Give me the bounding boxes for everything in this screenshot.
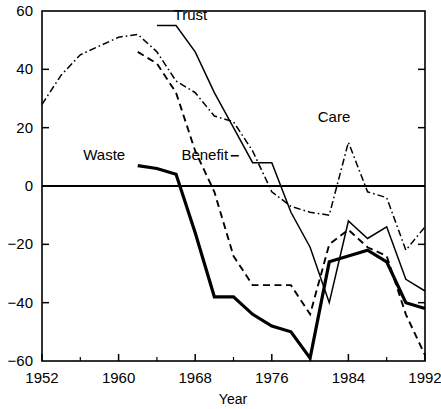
y-tick-label: −20 [8, 235, 33, 252]
x-axis-tick-labels: 195219601968197619841992 [25, 369, 441, 386]
chart-container: 195219601968197619841992 6040200−20−40−6… [0, 0, 441, 409]
x-axis-title: Year [219, 391, 248, 407]
series-line-care [42, 34, 425, 250]
y-tick-label: −40 [8, 294, 33, 311]
y-tick-label: −60 [8, 352, 33, 369]
series-line-waste [138, 166, 425, 358]
series-label-waste: Waste [83, 146, 125, 163]
x-tick-label: 1992 [408, 369, 441, 386]
series-lines [42, 26, 425, 359]
series-annotations: TrustCareWasteBenefit [83, 6, 350, 163]
x-tick-label: 1984 [332, 369, 365, 386]
x-tick-label: 1960 [102, 369, 135, 386]
series-label-care: Care [318, 108, 351, 125]
x-tick-label: 1976 [255, 369, 288, 386]
x-tick-label: 1968 [179, 369, 212, 386]
series-label-trust: Trust [174, 6, 208, 23]
y-tick-label: 60 [16, 2, 33, 19]
y-axis-tick-labels: 6040200−20−40−60 [8, 2, 33, 369]
y-tick-label: 40 [16, 60, 33, 77]
x-tick-label: 1952 [25, 369, 58, 386]
series-label-benefit: Benefit [181, 146, 229, 163]
y-tick-label: 0 [25, 177, 33, 194]
series-line-benefit [138, 52, 425, 355]
y-tick-label: 20 [16, 119, 33, 136]
line-chart: 195219601968197619841992 6040200−20−40−6… [0, 0, 441, 409]
